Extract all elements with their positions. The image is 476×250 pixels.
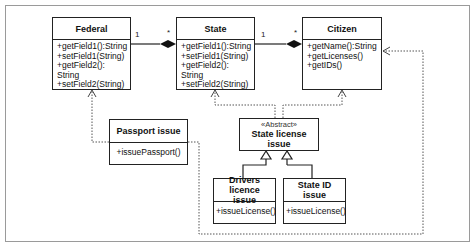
class-state[interactable]: State +getField1():String +setField1(Str…: [176, 17, 255, 90]
class-name: State: [177, 18, 254, 40]
method-list: +getName():String +getLicenses() +getIDs…: [303, 40, 381, 73]
method: +issueLicense(): [216, 207, 273, 217]
method: +issueLicense(): [286, 207, 343, 217]
class-state-license-issue[interactable]: «Abstract» State license issue: [239, 118, 319, 151]
stereotype-label: «Abstract»: [261, 120, 297, 129]
class-name: Citizen: [303, 18, 381, 40]
method: +getField2(): String: [57, 61, 126, 80]
method: +setField2(String): [181, 80, 250, 90]
class-citizen[interactable]: Citizen +getName():String +getLicenses()…: [302, 17, 382, 90]
method-list: +getField1():String +setField1(String) +…: [177, 40, 254, 92]
dependency-passport-federal: [92, 90, 109, 142]
class-drivers-licence-issue[interactable]: Drivers licence issue +issueLicense(): [213, 178, 276, 224]
dependency-abstract-citizen: [283, 90, 342, 118]
multiplicity-federal: 1: [135, 30, 139, 39]
class-header: Drivers licence issue: [214, 179, 275, 202]
class-name: State license issue: [240, 129, 318, 149]
method-list: +getField1():String +setField1(String) +…: [53, 40, 130, 92]
class-name-line2: issue: [233, 195, 256, 205]
method-list: +issuePassport(): [110, 143, 187, 160]
multiplicity-citizen-many: *: [294, 28, 297, 37]
composition-federal-state: [131, 40, 176, 48]
class-name-line1: Drivers licence: [214, 175, 275, 195]
class-name-line1: State ID: [298, 180, 332, 190]
method: +setField2(String): [57, 80, 126, 90]
class-header: «Abstract» State license issue: [240, 119, 318, 150]
class-name-line2: issue: [303, 190, 326, 200]
class-state-id-issue[interactable]: State ID issue +issueLicense(): [283, 178, 346, 224]
method: +getField2(): String: [181, 61, 250, 80]
class-name: Federal: [53, 18, 130, 40]
method: +issuePassport(): [114, 148, 183, 158]
class-federal[interactable]: Federal +getField1():String +setField1(S…: [52, 17, 131, 90]
multiplicity-state: 1: [261, 30, 265, 39]
multiplicity-state-many: *: [167, 28, 170, 37]
composition-state-citizen: [255, 40, 302, 48]
method: +getIDs(): [307, 61, 377, 71]
class-name: Passport issue: [110, 120, 187, 143]
class-passport-issue[interactable]: Passport issue +issuePassport(): [109, 119, 188, 165]
class-header: State ID issue: [284, 179, 345, 202]
method-list: +issueLicense(): [284, 202, 345, 219]
generalization-arrows: [243, 151, 312, 178]
dependency-abstract-state: [215, 90, 275, 118]
